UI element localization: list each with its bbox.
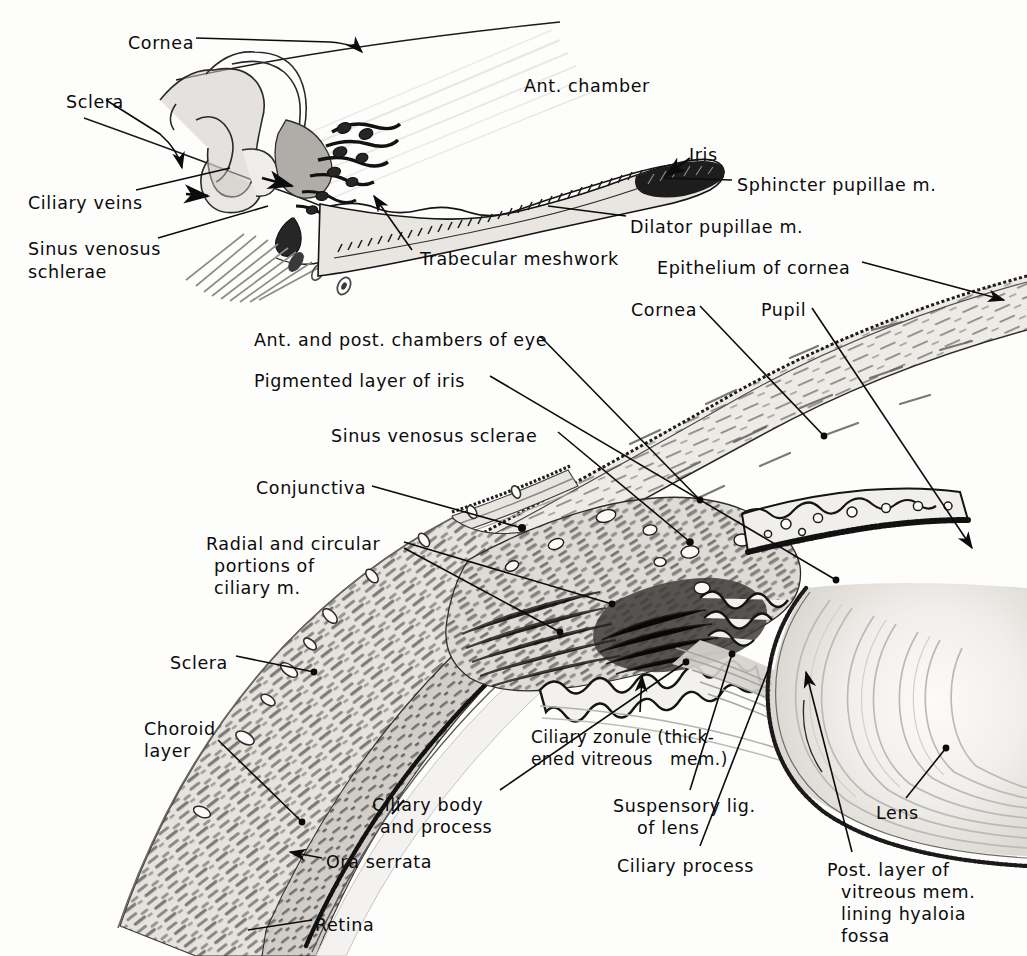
label-chambers-of-eye: Ant. and post. chambers of eye: [254, 330, 547, 351]
label-suspensory-lig-line2: of lens: [637, 818, 699, 839]
label-ant-chamber: Ant. chamber: [524, 76, 650, 97]
label-trabecular-meshwork: Trabecular meshwork: [420, 249, 619, 270]
label-ciliary-veins: Ciliary veins: [28, 193, 143, 214]
anatomy-plate: Cornea Sclera Ciliary veins Sinus venosu…: [0, 0, 1027, 956]
label-ciliary-process: Ciliary process: [617, 856, 754, 877]
label-choroid-line2: layer: [144, 741, 191, 762]
label-sinus-venosus-sclerae: Sinus venosus sclerae: [331, 426, 537, 447]
label-retina: Retina: [315, 915, 374, 936]
label-ciliary-zonule-line1: Ciliary zonule (thick-: [531, 727, 714, 748]
label-dilator-pupillae: Dilator pupillae m.: [630, 217, 803, 238]
label-lens: Lens: [876, 803, 919, 824]
label-pupil: Pupil: [761, 300, 806, 321]
label-ciliary-muscle-line2: portions of: [214, 556, 315, 577]
label-post-layer-line3: lining hyaloia: [841, 904, 966, 925]
label-ciliary-muscle-line1: Radial and circular: [206, 534, 380, 555]
label-sclera-lower: Sclera: [170, 653, 228, 674]
label-conjunctiva: Conjunctiva: [256, 478, 366, 499]
eye-anatomy-illustration: [0, 0, 1027, 956]
label-post-layer-line1: Post. layer of: [827, 860, 949, 881]
label-sinus-venosus-upper-line2: schlerae: [28, 262, 107, 283]
label-ciliary-zonule-line2: ened vitreous mem.): [531, 749, 728, 770]
label-suspensory-lig-line1: Suspensory lig.: [613, 796, 756, 817]
label-ora-serrata: Ora serrata: [326, 852, 432, 873]
label-ciliary-muscle-line3: ciliary m.: [214, 578, 301, 599]
label-post-layer-line2: vitreous mem.: [841, 882, 975, 903]
label-cornea-upper: Cornea: [128, 33, 194, 54]
label-epithelium-of-cornea: Epithelium of cornea: [657, 258, 850, 279]
label-sclera-upper: Sclera: [66, 92, 124, 113]
label-post-layer-line4: fossa: [841, 926, 890, 947]
label-sphincter-pupillae: Sphincter pupillae m.: [737, 175, 936, 196]
label-ciliary-body-line1: Ciliary body: [372, 795, 483, 816]
label-sinus-venosus-upper-line1: Sinus venosus: [28, 239, 161, 260]
label-choroid-line1: Choroid: [144, 719, 216, 740]
label-iris: Iris: [689, 145, 718, 166]
label-pigmented-layer-of-iris: Pigmented layer of iris: [254, 371, 465, 392]
label-cornea-lower: Cornea: [631, 300, 697, 321]
label-ciliary-body-line2: and process: [380, 817, 492, 838]
